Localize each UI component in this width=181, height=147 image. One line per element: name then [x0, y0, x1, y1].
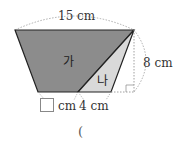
bottom-left-unit: cm: [58, 99, 77, 113]
answer-paren: (: [78, 124, 83, 139]
height-label: 8 cm: [143, 56, 173, 70]
region-b-label: 나: [97, 74, 108, 88]
answer-box[interactable]: [40, 98, 54, 112]
top-width-label: 15 cm: [58, 9, 96, 23]
right-angle-marker: [126, 85, 134, 92]
bottom-right-label: 4 cm: [79, 99, 109, 113]
region-a-label: 가: [63, 55, 74, 69]
trapezoid-diagram: 15 cm 8 cm 가 나 cm 4 cm: [0, 0, 181, 147]
